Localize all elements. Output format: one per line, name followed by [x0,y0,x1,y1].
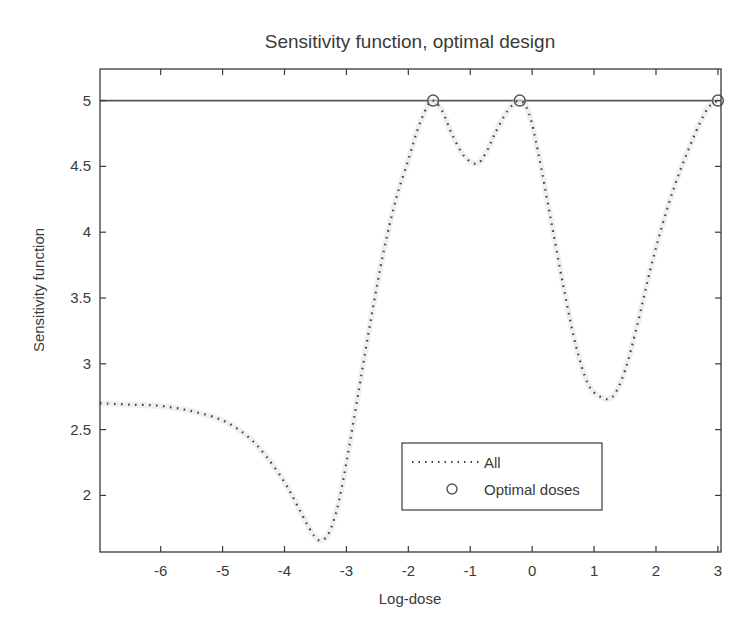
legend: All Optimal doses [402,443,602,510]
y-tick-label: 5 [83,92,91,109]
sensitivity-chart: Sensitivity function, optimal design -6-… [0,0,750,634]
x-tick-label: 0 [528,562,536,579]
legend-label-all: All [484,454,501,471]
chart-canvas: Sensitivity function, optimal design -6-… [0,0,750,634]
x-tick-label: -5 [216,562,229,579]
x-tick-label: 3 [714,562,722,579]
plot-area: -6-5-4-3-2-10123 22.533.544.55 [70,69,723,579]
x-tick-label: -3 [340,562,353,579]
legend-box [402,443,602,510]
x-axis-label: Log-dose [379,590,442,607]
x-tick-label: -2 [402,562,415,579]
y-tick-label: 4 [83,223,91,240]
x-tick-label: -6 [154,562,167,579]
x-tick-label: -4 [278,562,291,579]
y-tick-label: 4.5 [70,157,91,174]
chart-title: Sensitivity function, optimal design [265,31,555,52]
x-tick-label: 2 [652,562,660,579]
y-tick-label: 2 [83,486,91,503]
y-tick-label: 2.5 [70,421,91,438]
legend-label-optimal-doses: Optimal doses [484,481,580,498]
x-tick-label: 1 [590,562,598,579]
y-tick-label: 3.5 [70,289,91,306]
y-axis-label: Sensitivity function [30,228,47,352]
x-tick-label: -1 [464,562,477,579]
y-tick-label: 3 [83,355,91,372]
